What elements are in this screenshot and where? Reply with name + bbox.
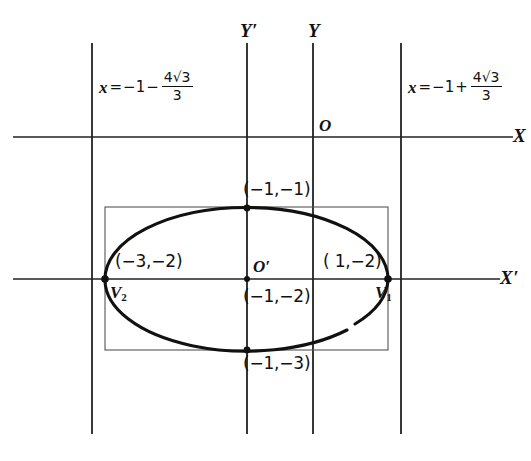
x-prime-axis-label: X′ (500, 268, 519, 287)
top-covertex-coord-label: (−1,−1) (243, 181, 310, 198)
right-directrix-numerator: 4√3 (471, 70, 502, 87)
right-directrix-denominator: 3 (482, 87, 491, 103)
point-center-o-prime (244, 276, 250, 282)
right-vertex-coord-label: ( 1,−2) (323, 253, 382, 270)
vertex-v1-subscript: 1 (386, 291, 392, 303)
x-axis-label: X (513, 126, 526, 145)
right-directrix-equation: x = −1 + 4√3 3 (408, 71, 502, 103)
y-prime-axis-label: Y′ (240, 21, 258, 40)
left-directrix-denominator: 3 (173, 87, 182, 103)
diagram-canvas (0, 0, 531, 461)
point-top-covertex (244, 205, 251, 212)
bottom-covertex-coord-label: (−1,−3) (243, 355, 310, 372)
center-coord-label: (−1,−2) (243, 288, 310, 305)
y-axis-label: Y (308, 21, 320, 40)
right-directrix-equals: = (418, 80, 433, 95)
vertex-v1-label: V1 (375, 284, 392, 303)
translated-origin-label: O′ (253, 258, 270, 275)
left-directrix-numerator: 4√3 (162, 70, 193, 87)
vertex-v1-letter: V (375, 283, 386, 302)
ellipse-diagram: Y′ Y X X′ O O′ (−1,−1) (−1,−3) (−3,−2) (… (0, 0, 531, 461)
left-directrix-equals: = (109, 80, 124, 95)
right-directrix-operator: + (454, 80, 469, 95)
point-vertex-v2 (101, 275, 109, 283)
right-directrix-fraction: 4√3 3 (471, 70, 502, 102)
right-directrix-variable: x (408, 79, 418, 96)
vertex-v2-subscript: 2 (121, 291, 127, 303)
left-directrix-equation: x = −1 − 4√3 3 (99, 71, 193, 103)
left-directrix-constant: −1 (123, 80, 145, 95)
vertex-v2-letter: V (110, 283, 121, 302)
left-vertex-coord-label: (−3,−2) (115, 253, 182, 270)
vertex-v2-label: V2 (110, 284, 127, 303)
left-directrix-fraction: 4√3 3 (162, 70, 193, 102)
left-directrix-variable: x (99, 79, 109, 96)
left-directrix-operator: − (145, 80, 160, 95)
point-vertex-v1 (384, 275, 392, 283)
right-directrix-constant: −1 (432, 80, 454, 95)
origin-label: O (319, 117, 331, 134)
